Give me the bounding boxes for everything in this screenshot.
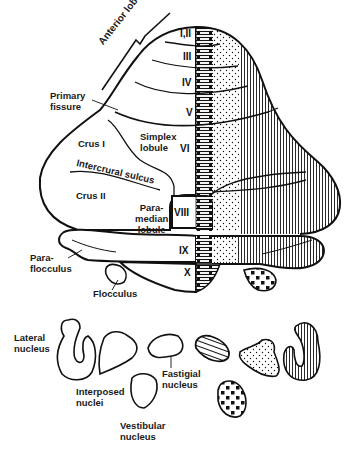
vestibular-zone-shape (218, 381, 246, 417)
label-lobule-viii: VIII (174, 207, 189, 218)
fastigial-zone-shape (196, 336, 229, 362)
label-primary-fissure: Primary fissure (50, 90, 85, 112)
vestibular-nucleus-outline (131, 374, 157, 408)
label-lobule-v: V (186, 107, 193, 118)
label-paraflocculus: Para- flocculus (30, 252, 72, 274)
label-lobule-vi: VI (180, 143, 189, 154)
label-simplex-line2: lobule (140, 142, 176, 153)
cerebellum-diagram: Anterior lobe I,II III IV V VI VIII IX X… (0, 0, 352, 456)
label-paraflocculus-line1: Para- (30, 252, 72, 263)
label-simplex-lobule: Simplex lobule (140, 131, 176, 153)
label-paramedian-line1: Para- (135, 202, 168, 213)
label-lateral-line1: Lateral (14, 332, 50, 343)
label-crus-ii: Crus II (76, 190, 106, 201)
label-paramedian-line2: median (135, 213, 168, 224)
label-vestibular-nucleus: Vestibular nucleus (120, 420, 165, 442)
label-lobule-i-ii: I,II (180, 28, 191, 39)
label-interposed-line2: nuclei (76, 397, 125, 408)
label-lateral-nucleus: Lateral nucleus (14, 332, 50, 354)
label-crus-i: Crus I (78, 138, 105, 149)
label-paramedian-line3: lobule (135, 224, 168, 235)
label-lobule-iii: III (183, 51, 191, 62)
label-flocculus: Flocculus (93, 288, 137, 299)
label-paraflocculus-line2: flocculus (30, 263, 72, 274)
label-primary-fissure-line2: fissure (50, 101, 85, 112)
lateral-zone-shape (284, 323, 320, 380)
label-simplex-line1: Simplex (140, 131, 176, 142)
label-fastigial-line1: Fastigial (162, 368, 201, 379)
interposed-nuclei-outline (99, 332, 137, 374)
label-primary-fissure-line1: Primary (50, 90, 85, 101)
label-fastigial-line2: nucleus (162, 379, 201, 390)
interposed-zone-shape (239, 340, 279, 377)
paraflocculus-region (59, 230, 324, 268)
fastigial-nucleus-outline (148, 335, 183, 358)
label-lobule-x: X (184, 267, 191, 278)
lateral-nucleus-outline (58, 319, 96, 379)
label-fastigial-nucleus: Fastigial nucleus (162, 368, 201, 390)
label-vestibular-line2: nucleus (120, 431, 165, 442)
label-paramedian-lobule: Para- median lobule (135, 202, 168, 235)
label-interposed-line1: Interposed (76, 386, 125, 397)
label-lateral-line2: nucleus (14, 343, 50, 354)
label-lobule-ix: IX (179, 245, 188, 256)
label-lobule-iv: IV (182, 77, 191, 88)
label-vestibular-line1: Vestibular (120, 420, 165, 431)
label-interposed-nuclei: Interposed nuclei (76, 386, 125, 408)
